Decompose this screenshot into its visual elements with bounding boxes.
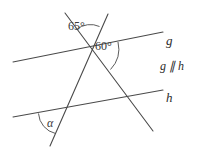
geometry-canvas: [0, 0, 209, 149]
line-h: [13, 90, 163, 117]
line-label-g: g: [166, 34, 173, 47]
transversal-ascending: [50, 14, 108, 146]
line-g: [13, 32, 163, 62]
parallel-notation: g ∥ h: [160, 60, 184, 72]
line-label-h: h: [166, 91, 173, 104]
angle-label-60: 60°: [95, 40, 112, 52]
angle-label-alpha: α: [47, 117, 53, 129]
angle-label-65: 65°: [68, 20, 85, 32]
geometry-figure: 65° 60° α g h g ∥ h: [0, 0, 209, 149]
